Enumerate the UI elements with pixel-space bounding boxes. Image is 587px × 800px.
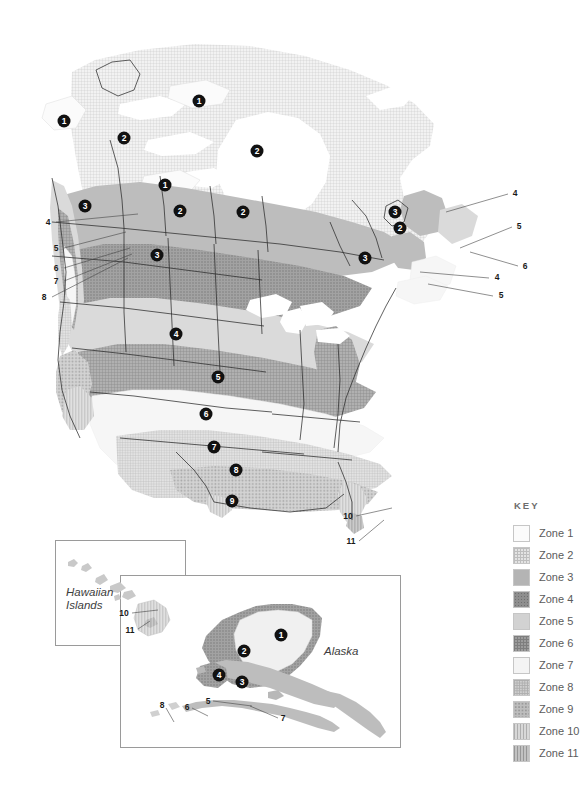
legend-swatch-10 (513, 723, 530, 740)
main_map-zone-marker-1: 1 (159, 179, 172, 192)
aleutian-island-far (168, 702, 180, 710)
alaska_map-zone-marker-2: 2 (238, 645, 251, 658)
alaska_map-zone-marker-3: 3 (236, 676, 249, 689)
alaska_map-leader-label-6: 6 (185, 703, 190, 712)
alaska_map-leader-label-7: 7 (281, 714, 286, 723)
hawaii_map-leader-label-10: 10 (119, 609, 128, 618)
main_map-zone-marker-4: 4 (170, 328, 183, 341)
legend-label-8: Zone 8 (539, 682, 573, 693)
main_map-zone-marker-2: 2 (118, 132, 131, 145)
main_map-zone-marker-6: 6 (200, 408, 213, 421)
main_map-zone-marker-2: 2 (394, 222, 407, 235)
legend-item-zone-4: Zone 4 (513, 588, 587, 610)
main_map-leader-label-6: 6 (523, 262, 528, 271)
main_map-leader-label-7: 7 (54, 277, 59, 286)
alaska-inset-title: Alaska (324, 645, 359, 658)
alaska_map-leader-label-8: 8 (160, 701, 165, 710)
legend-swatch-4 (513, 591, 530, 608)
aleutian-island-far2 (150, 710, 160, 717)
main_map-zone-marker-8: 8 (230, 464, 243, 477)
island-kauai (68, 559, 78, 567)
main_map-leader-label-4: 4 (46, 218, 51, 227)
alaska-shapes (150, 604, 386, 738)
legend-label-1: Zone 1 (539, 528, 573, 539)
main_map-leader-label-4: 4 (495, 273, 500, 282)
legend-label-5: Zone 5 (539, 616, 573, 627)
legend-swatch-1 (513, 525, 530, 542)
main_map-zone-marker-3: 3 (151, 249, 164, 262)
island-lanai (114, 594, 121, 601)
island-oahu (95, 574, 108, 585)
legend-item-zone-7: Zone 7 (513, 655, 587, 677)
legend-rows: Zone 1Zone 2Zone 3Zone 4Zone 5Zone 6Zone… (513, 522, 587, 765)
legend-item-zone-8: Zone 8 (513, 677, 587, 699)
main_map-leader-label-11: 11 (347, 537, 356, 546)
hawaii-inset-title: Hawaiian Islands (66, 586, 113, 612)
leader-line-8-alaska (166, 708, 174, 722)
map-figure: Hawaiian Islands Alaska 1122132232334567… (0, 0, 587, 800)
legend-item-zone-11: Zone 11 (513, 743, 587, 765)
main_map-leader-label-8: 8 (42, 293, 47, 302)
main_map-leader-label-5: 5 (499, 291, 504, 300)
main_map-leader-label-4: 4 (513, 189, 518, 198)
legend-item-zone-1: Zone 1 (513, 522, 587, 544)
main_map-zone-marker-3: 3 (79, 200, 92, 213)
legend-item-zone-6: Zone 6 (513, 632, 587, 654)
legend-title: KEY (514, 500, 587, 511)
map-legend: KEY Zone 1Zone 2Zone 3Zone 4Zone 5Zone 6… (513, 500, 587, 765)
inset-maps (0, 0, 587, 800)
legend-label-2: Zone 2 (539, 550, 573, 561)
main_map-zone-marker-1: 1 (58, 115, 71, 128)
legend-swatch-2 (513, 547, 530, 564)
legend-swatch-11 (513, 745, 530, 762)
main_map-zone-marker-3: 3 (389, 206, 402, 219)
island-oahu-west (81, 563, 92, 572)
legend-item-zone-5: Zone 5 (513, 610, 587, 632)
main_map-zone-marker-2: 2 (251, 145, 264, 158)
main_map-leader-label-5: 5 (54, 244, 59, 253)
alaska_map-zone-marker-4: 4 (213, 669, 226, 682)
main_map-zone-marker-1: 1 (193, 95, 206, 108)
legend-label-4: Zone 4 (539, 594, 573, 605)
legend-label-6: Zone 6 (539, 638, 573, 649)
legend-label-9: Zone 9 (539, 704, 573, 715)
legend-label-11: Zone 11 (539, 748, 579, 759)
alaska_map-leader-label-5: 5 (206, 697, 211, 706)
legend-label-10: Zone 10 (539, 726, 579, 737)
island-maui (122, 590, 136, 600)
legend-item-zone-10: Zone 10 (513, 721, 587, 743)
main_map-zone-marker-7: 7 (208, 441, 221, 454)
main_map-zone-marker-9: 9 (226, 495, 239, 508)
main_map-zone-marker-2: 2 (174, 205, 187, 218)
legend-swatch-6 (513, 635, 530, 652)
legend-item-zone-2: Zone 2 (513, 544, 587, 566)
leader-line-6-alaska (192, 708, 208, 716)
alaska_map-zone-marker-1: 1 (275, 629, 288, 642)
hawaii_map-leader-label-11: 11 (126, 626, 135, 635)
legend-swatch-8 (513, 679, 530, 696)
main_map-zone-marker-5: 5 (212, 371, 225, 384)
main_map-leader-label-6: 6 (54, 264, 59, 273)
legend-item-zone-3: Zone 3 (513, 566, 587, 588)
legend-swatch-3 (513, 569, 530, 586)
main_map-zone-marker-2: 2 (237, 206, 250, 219)
legend-swatch-5 (513, 613, 530, 630)
legend-item-zone-9: Zone 9 (513, 699, 587, 721)
legend-swatch-9 (513, 701, 530, 718)
main_map-leader-label-10: 10 (343, 512, 352, 521)
legend-label-3: Zone 3 (539, 572, 573, 583)
main_map-leader-label-5: 5 (517, 222, 522, 231)
legend-swatch-7 (513, 657, 530, 674)
legend-label-7: Zone 7 (539, 660, 573, 671)
main_map-zone-marker-3: 3 (359, 252, 372, 265)
